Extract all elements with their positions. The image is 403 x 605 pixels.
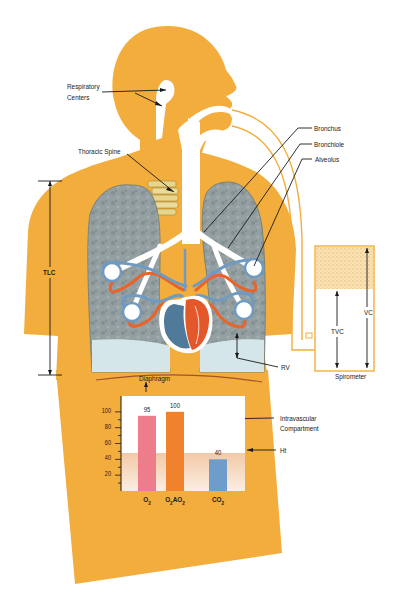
y-tick-label: 80 bbox=[97, 423, 111, 430]
bar-value-label: 95 bbox=[137, 406, 157, 413]
respiratory-diagram: Respiratory Centers Thoracic Spine Bronc… bbox=[0, 0, 403, 605]
diagram-canvas bbox=[0, 0, 403, 605]
label-spirometer: Spirometer bbox=[335, 372, 366, 381]
label-respiratory-centers-line1: Respiratory bbox=[67, 82, 100, 91]
bar-o2 bbox=[138, 416, 156, 491]
y-tick-label: 60 bbox=[97, 439, 111, 446]
bar-chart bbox=[115, 396, 245, 491]
label-tvc: TVC bbox=[331, 326, 344, 337]
label-intravascular-line1: Intravascular bbox=[280, 414, 316, 423]
label-vc: VC bbox=[364, 307, 373, 318]
label-ht: Ht bbox=[280, 446, 286, 455]
bar-value-label: 40 bbox=[208, 449, 228, 456]
x-category-label: O2AO2 bbox=[158, 495, 192, 506]
y-tick-label: 20 bbox=[97, 470, 111, 477]
y-tick-label: 100 bbox=[97, 407, 111, 414]
label-intravascular-line2: Compartment bbox=[280, 424, 319, 433]
label-rv: RV bbox=[281, 363, 290, 372]
label-thoracic-spine: Thoracic Spine bbox=[78, 147, 121, 156]
label-respiratory-centers-line2: Centers bbox=[67, 93, 89, 102]
label-alveolus: Alveolus bbox=[315, 155, 339, 164]
y-tick-label: 40 bbox=[97, 454, 111, 461]
bar-value-label: 100 bbox=[165, 402, 185, 409]
label-bronchiole: Bronchiole bbox=[314, 140, 344, 149]
bar-o2ao2 bbox=[166, 412, 184, 491]
bar-co2 bbox=[209, 459, 227, 491]
label-diaphragm: Diaphragm bbox=[139, 374, 170, 383]
label-tlc: TLC bbox=[43, 267, 55, 278]
x-category-label: CO2 bbox=[201, 495, 235, 506]
label-bronchus: Bronchus bbox=[314, 124, 341, 133]
